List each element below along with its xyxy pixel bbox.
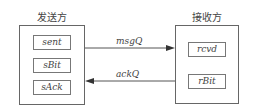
msg-channel-label: msgQ — [116, 36, 142, 46]
channel-arrows — [0, 0, 255, 112]
ack-channel-label: ackQ — [116, 69, 139, 79]
